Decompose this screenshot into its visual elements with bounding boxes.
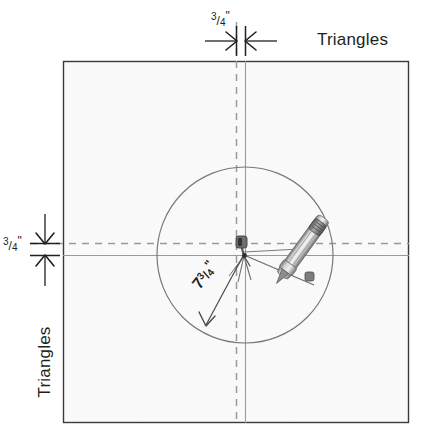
triangles-layout-diagram: Triangles Triangles 3/4" 3/4" 73/4": [0, 0, 421, 433]
label-triangles-top: Triangles: [317, 30, 388, 50]
left-dimension-label: 3/4": [3, 235, 22, 254]
top-dimension-marker: [205, 26, 277, 56]
fraction-three-quarters-top: 3/4": [211, 10, 230, 28]
compass-lower-joint: [305, 272, 314, 281]
fraction-three-quarters-left: 3/4": [3, 235, 22, 253]
left-dimension-marker: [30, 214, 60, 286]
label-triangles-left: Triangles: [35, 315, 55, 409]
top-dimension-label: 3/4": [211, 10, 230, 29]
inch-mark: ": [225, 9, 229, 23]
inch-mark: ": [17, 234, 21, 248]
diagram-canvas: [0, 0, 421, 433]
